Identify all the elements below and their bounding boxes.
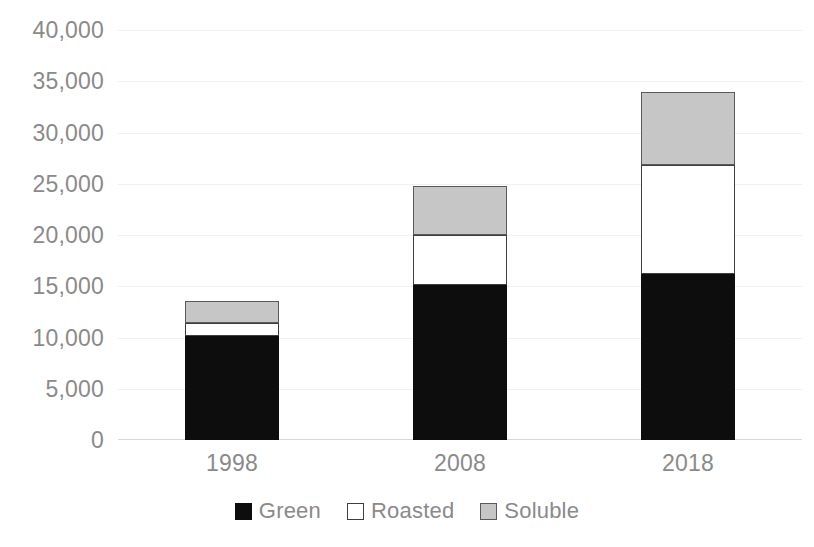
stacked-bar-chart: 40,00035,00030,00025,00020,00015,00010,0… [0, 0, 814, 547]
bar-segment-roasted-2008[interactable] [413, 235, 507, 285]
y-axis-tick-label: 30,000 [0, 121, 104, 144]
y-axis-tick-label: 5,000 [0, 377, 104, 400]
bar-group-2008[interactable] [413, 30, 507, 440]
y-axis-tick-label: 25,000 [0, 172, 104, 195]
bar-segment-green-2018[interactable] [641, 274, 735, 440]
chart-legend: GreenRoastedSoluble [0, 500, 814, 522]
bar-segment-roasted-1998[interactable] [185, 323, 279, 336]
x-axis-tick-label-2008: 2008 [380, 452, 540, 475]
x-axis-tick-label-1998: 1998 [152, 452, 312, 475]
plot-area [118, 30, 802, 440]
bar-segment-roasted-2018[interactable] [641, 165, 735, 274]
legend-label: Roasted [371, 500, 454, 522]
bar-segment-soluble-1998[interactable] [185, 301, 279, 324]
legend-item-soluble[interactable]: Soluble [480, 500, 579, 522]
y-axis-tick-label: 15,000 [0, 275, 104, 298]
green-swatch-icon [235, 503, 252, 520]
bar-segment-green-1998[interactable] [185, 336, 279, 440]
legend-item-green[interactable]: Green [235, 500, 321, 522]
bar-segment-soluble-2018[interactable] [641, 92, 735, 166]
y-axis-tick-label: 0 [0, 429, 104, 452]
bar-segment-soluble-2008[interactable] [413, 186, 507, 235]
y-axis-tick-label: 10,000 [0, 326, 104, 349]
y-axis-tick-label: 20,000 [0, 224, 104, 247]
bar-segment-green-2008[interactable] [413, 285, 507, 440]
y-axis-tick-label: 35,000 [0, 70, 104, 93]
bar-group-1998[interactable] [185, 30, 279, 440]
bar-group-2018[interactable] [641, 30, 735, 440]
soluble-swatch-icon [480, 503, 497, 520]
y-axis-tick-label: 40,000 [0, 19, 104, 42]
roasted-swatch-icon [347, 503, 364, 520]
legend-label: Green [259, 500, 321, 522]
x-axis-tick-label-2018: 2018 [608, 452, 768, 475]
legend-item-roasted[interactable]: Roasted [347, 500, 454, 522]
y-axis: 40,00035,00030,00025,00020,00015,00010,0… [0, 0, 104, 460]
legend-label: Soluble [504, 500, 579, 522]
